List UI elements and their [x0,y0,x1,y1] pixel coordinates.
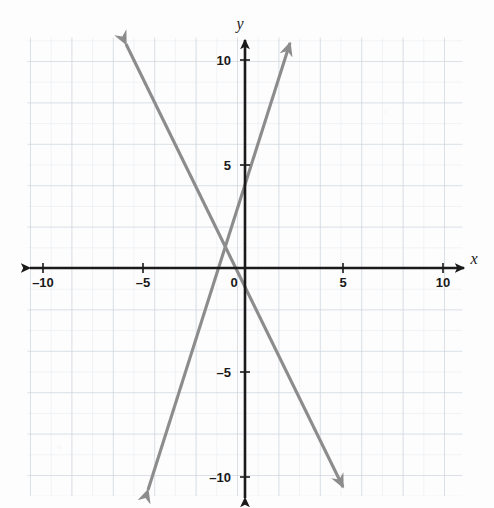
origin-label: 0 [230,275,237,290]
x-axis-label: x [469,250,477,267]
coordinate-plane: –10 –5 0 5 10 10 5 –5 –10 x y [0,0,494,508]
graph-canvas: –10 –5 0 5 10 10 5 –5 –10 x y [0,0,494,508]
y-tick-label-10: 10 [217,53,231,68]
y-tick-label--10: –10 [209,470,231,485]
x-tick-label-10: 10 [436,275,450,290]
x-tick-label--5: –5 [136,275,150,290]
y-axis-label: y [234,15,244,33]
y-tick-label-5: 5 [224,158,231,173]
x-tick-label-5: 5 [339,275,346,290]
x-tick-label--10: –10 [32,275,54,290]
y-tick-label--5: –5 [217,365,231,380]
